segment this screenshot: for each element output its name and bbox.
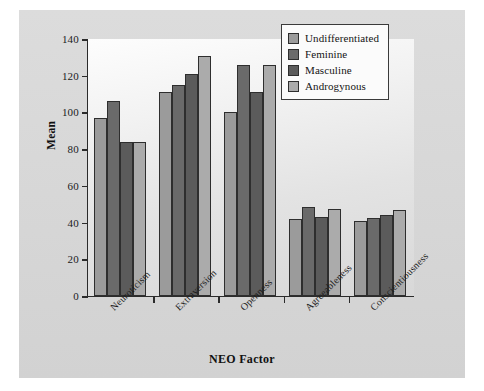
legend-item: Feminine — [288, 46, 379, 62]
legend-item-label: Androgynous — [305, 80, 366, 92]
legend-swatch-icon — [288, 49, 299, 60]
x-axis-tick — [153, 296, 155, 303]
bar — [354, 221, 367, 296]
legend-item: Masculine — [288, 62, 379, 78]
bar — [224, 112, 237, 296]
y-axis-tick-label: 20 — [68, 253, 79, 265]
y-axis-tick-label: 0 — [73, 290, 79, 302]
x-axis-title: NEO Factor — [19, 352, 465, 367]
legend-swatch-icon — [288, 33, 299, 44]
legend-swatch-icon — [288, 81, 299, 92]
legend-item-label: Undifferentiated — [305, 32, 379, 44]
bar — [172, 85, 185, 296]
x-axis-tick — [349, 296, 351, 303]
legend-item-label: Masculine — [305, 64, 352, 76]
legend-swatch-icon — [288, 65, 299, 76]
chart-screenshot: Mean 020406080100120140 NeuroticismExtra… — [0, 0, 484, 391]
legend-item: Androgynous — [288, 78, 379, 94]
y-axis-tick-label: 100 — [62, 106, 79, 118]
y-axis-title: Mean — [45, 121, 57, 150]
legend-item: Undifferentiated — [288, 30, 379, 46]
y-axis-tick-label: 60 — [68, 180, 79, 192]
y-axis-tick — [82, 296, 88, 298]
bar — [198, 56, 211, 296]
bar — [159, 92, 172, 296]
bar — [120, 142, 133, 296]
legend-item-label: Feminine — [305, 48, 347, 60]
x-axis-tick — [284, 296, 286, 303]
chart-legend: UndifferentiatedFeminineMasculineAndrogy… — [281, 24, 389, 100]
bar — [367, 218, 380, 296]
bar — [107, 101, 120, 296]
bar — [94, 118, 107, 296]
bar — [289, 219, 302, 296]
bar — [250, 92, 263, 296]
bar — [185, 74, 198, 296]
figure-panel: Mean 020406080100120140 NeuroticismExtra… — [19, 10, 465, 378]
y-axis-tick-label: 140 — [62, 33, 79, 45]
bar — [302, 207, 315, 296]
y-axis-tick-label: 40 — [68, 217, 79, 229]
y-axis-tick-label: 80 — [68, 143, 79, 155]
bar — [263, 65, 276, 296]
x-axis-tick — [218, 296, 220, 303]
y-axis-tick-label: 120 — [62, 70, 79, 82]
bar — [237, 65, 250, 296]
